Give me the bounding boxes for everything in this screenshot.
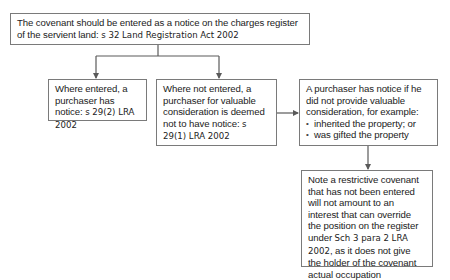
entered-node: Where entered, a purchaser has notice: s…	[48, 79, 147, 121]
root-node: The covenant should be entered as a noti…	[10, 13, 310, 45]
no-value-bullet-list: inherited the property; or was gifted th…	[306, 118, 431, 141]
no-value-node-text: A purchaser has notice if he did not pro…	[306, 83, 431, 118]
bullet-item: was gifted the property	[306, 129, 431, 141]
not-entered-node: Where not entered, a purchaser for valua…	[156, 79, 277, 146]
no-value-node: A purchaser has notice if he did not pro…	[299, 79, 438, 146]
bullet-item: inherited the property; or	[306, 118, 431, 130]
not-entered-node-text: Where not entered, a purchaser for valua…	[163, 83, 265, 129]
root-node-citation: s 32 Land Registration Act 2002	[101, 30, 239, 40]
note-node: Note a restrictive covenant that has not…	[301, 170, 433, 267]
